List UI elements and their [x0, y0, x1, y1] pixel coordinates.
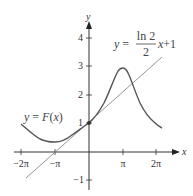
curve-label: y = F(x)	[23, 110, 63, 124]
svg-text:y =: y =	[113, 37, 129, 51]
x-tick-label: π	[120, 158, 125, 169]
y-tick-label: 1	[78, 117, 83, 128]
x-tick-label: −2π	[13, 158, 29, 169]
y-tick-label: 3	[78, 60, 83, 71]
y-axis-label: y	[85, 11, 91, 22]
tangent-point	[87, 121, 91, 125]
fraction-numerator: ln 2	[137, 29, 155, 43]
x-tick-label: 2π	[151, 158, 161, 169]
y-axis-arrow-icon	[86, 21, 92, 29]
x-axis-label: x	[181, 146, 187, 157]
y-tick-label: −1	[73, 174, 84, 185]
x-axis-arrow-icon	[172, 149, 180, 155]
fraction-denominator: 2	[143, 45, 149, 59]
chart: −2π −π π 2π 4 3 2 1 −1 x y y = F(x) y = …	[0, 0, 193, 196]
tangent-line-label: y = ln 2 2 x+1	[113, 29, 176, 59]
x-tick-label: −π	[50, 158, 61, 169]
y-tick-label: 2	[78, 89, 83, 100]
svg-text:y = F(x): y = F(x)	[23, 110, 63, 124]
svg-text:x+1: x+1	[157, 37, 176, 51]
curve-F	[21, 68, 162, 142]
y-tick-label: 4	[78, 32, 83, 43]
